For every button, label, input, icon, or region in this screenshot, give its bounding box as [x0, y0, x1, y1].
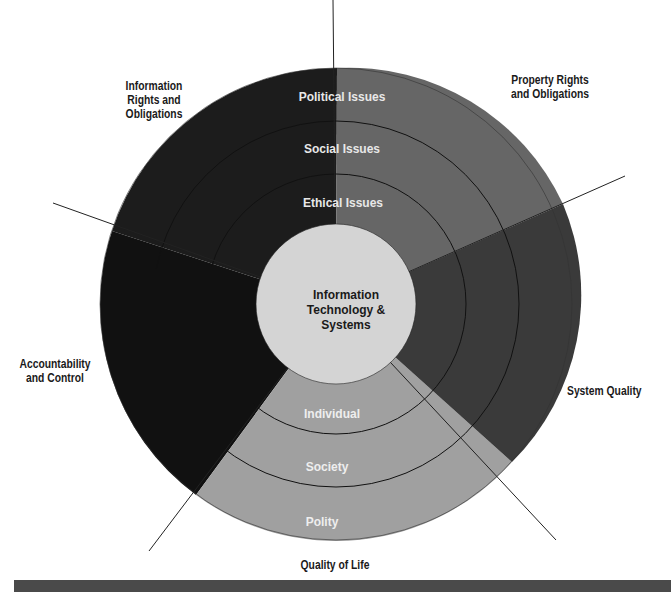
- svg-text:Systems: Systems: [321, 318, 371, 332]
- svg-text:Information: Information: [313, 288, 379, 302]
- ring-label-individual: Individual: [304, 407, 360, 421]
- label-accountability: Accountability and Control: [8, 357, 103, 385]
- ring-label-social: Social Issues: [304, 142, 380, 156]
- label-quality-of-life: Quality of Life: [279, 558, 391, 572]
- ring-label-polity: Polity: [306, 515, 339, 529]
- ring-label-ethical: Ethical Issues: [303, 196, 383, 210]
- label-system-quality: System Quality: [567, 384, 662, 398]
- label-information-rights: Information Rights and Obligations: [101, 79, 208, 121]
- label-property-rights: Property Rights and Obligations: [486, 73, 615, 101]
- svg-text:Technology &: Technology &: [307, 303, 386, 317]
- ring-label-society: Society: [306, 460, 349, 474]
- bottom-rule: [14, 580, 671, 592]
- ring-label-political: Political Issues: [299, 90, 386, 104]
